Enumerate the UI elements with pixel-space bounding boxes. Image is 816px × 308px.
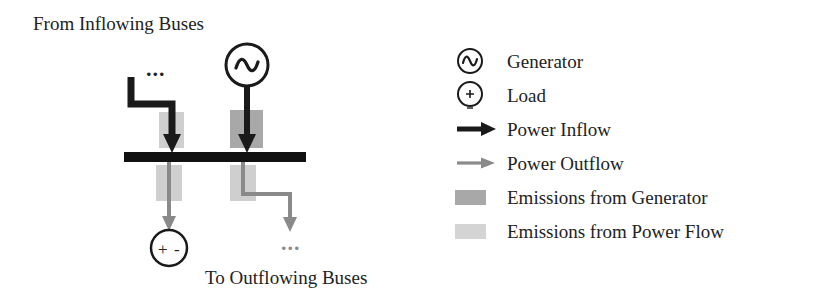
gray-arrow-icon xyxy=(455,146,507,180)
legend-row-load: Load xyxy=(455,78,805,112)
legend-row-emissions-power-flow: Emissions from Power Flow xyxy=(455,214,805,248)
legend-row-emissions-generator: Emissions from Generator xyxy=(455,180,805,214)
legend: Generator Load Power Inflow Powe xyxy=(455,44,805,248)
outflow-arrowhead-right xyxy=(283,217,297,232)
bus-bar xyxy=(124,152,306,162)
legend-label-power-inflow: Power Inflow xyxy=(507,120,611,139)
dark-gray-swatch xyxy=(455,180,507,214)
legend-row-power-inflow: Power Inflow xyxy=(455,112,805,146)
black-arrow-icon xyxy=(455,112,507,146)
legend-label-power-outflow: Power Outflow xyxy=(507,154,624,173)
legend-label-emissions-generator: Emissions from Generator xyxy=(507,188,708,207)
light-gray-swatch xyxy=(455,214,507,248)
load-minus-sign: - xyxy=(174,241,180,258)
legend-label-generator: Generator xyxy=(507,52,583,71)
load-circle xyxy=(151,230,187,266)
generator-circle-icon xyxy=(455,44,507,78)
legend-row-generator: Generator xyxy=(455,44,805,78)
load-circle-icon xyxy=(455,78,507,112)
load-plus-sign: + xyxy=(158,241,168,258)
legend-row-power-outflow: Power Outflow xyxy=(455,146,805,180)
legend-label-load: Load xyxy=(507,86,546,105)
legend-label-emissions-power-flow: Emissions from Power Flow xyxy=(507,222,724,241)
